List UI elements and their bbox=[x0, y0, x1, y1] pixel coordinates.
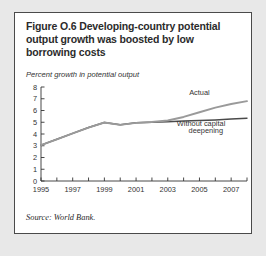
x-tick-label: 1997 bbox=[64, 185, 80, 194]
y-tick-label: 6 bbox=[33, 106, 37, 115]
y-tick-label: 1 bbox=[33, 165, 37, 174]
y-tick-label: 2 bbox=[33, 153, 37, 162]
x-axis: 1995199719992001200320052007 bbox=[33, 178, 247, 195]
y-tick-label: 3 bbox=[33, 141, 37, 150]
y-tick-label: 5 bbox=[33, 118, 37, 127]
source-note: Source: World Bank. bbox=[26, 213, 95, 222]
figure-title: Figure O.6 Developing-country potential … bbox=[26, 20, 242, 60]
x-tick-label: 2005 bbox=[191, 185, 207, 194]
x-tick-label: 1995 bbox=[33, 185, 49, 194]
x-tick-label: 2003 bbox=[160, 185, 176, 194]
line-chart: 012345678 1995199719992001200320052007 A… bbox=[15, 81, 253, 203]
y-axis: 012345678 bbox=[33, 83, 45, 186]
y-tick-label: 4 bbox=[33, 130, 37, 139]
series-annotation: deepening bbox=[189, 126, 224, 135]
x-tick-label: 2007 bbox=[223, 185, 239, 194]
axis-unit-note: Percent growth in potential output bbox=[26, 70, 139, 79]
x-tick-label: 2001 bbox=[128, 185, 144, 194]
chart-plot-area: 012345678 1995199719992001200320052007 A… bbox=[15, 81, 253, 203]
y-tick-label: 8 bbox=[33, 83, 37, 92]
y-tick-label: 7 bbox=[33, 94, 37, 103]
x-tick-label: 1999 bbox=[96, 185, 112, 194]
series-annotation: Actual bbox=[189, 88, 210, 97]
figure-panel: Figure O.6 Developing-country potential … bbox=[14, 12, 252, 234]
